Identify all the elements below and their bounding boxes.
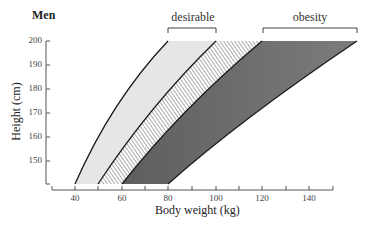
x-tick-label: 100 xyxy=(204,193,228,203)
x-axis xyxy=(52,186,333,190)
x-tick-label: 120 xyxy=(250,193,274,203)
y-axis xyxy=(46,41,50,184)
y-tick-label: 180 xyxy=(20,83,42,93)
y-tick-label: 160 xyxy=(20,131,42,141)
y-tick-label: 150 xyxy=(20,155,42,165)
x-tick-label: 80 xyxy=(156,193,180,203)
y-tick-label: 170 xyxy=(20,107,42,117)
x-tick-label: 60 xyxy=(110,193,134,203)
y-tick-label: 190 xyxy=(20,59,42,69)
x-tick-label: 40 xyxy=(63,193,87,203)
x-tick-label: 140 xyxy=(297,193,321,203)
y-tick-label: 200 xyxy=(20,35,42,45)
